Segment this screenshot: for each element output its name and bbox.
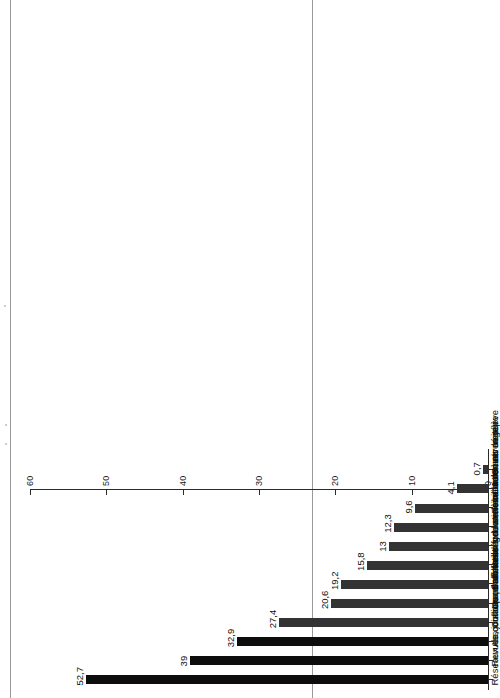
bar-value-label: 39: [179, 656, 189, 667]
value-axis-tick: [259, 489, 260, 495]
value-axis-tick-label: 40: [179, 476, 188, 486]
bar: [367, 561, 488, 570]
value-axis-tick-label: 60: [26, 476, 35, 486]
bar-value-label: 4,1: [446, 481, 456, 494]
bar: [457, 485, 488, 494]
bar-value-label: 27,4: [268, 610, 278, 629]
bar: [389, 542, 488, 551]
bar-value-label: 9,6: [404, 500, 414, 513]
bar: [483, 465, 488, 474]
bar: [331, 599, 488, 608]
bar-value-label: 0,7: [472, 462, 482, 475]
value-axis-tick: [412, 489, 413, 495]
bar: [279, 618, 488, 627]
bar-value-label: 13: [378, 541, 388, 552]
bar: [341, 580, 488, 589]
bar-value-label: 12,3: [383, 514, 393, 533]
bar-value-label: 15,8: [356, 552, 366, 571]
bar-value-label: 52,7: [75, 667, 85, 686]
value-axis-tick-label: 30: [255, 476, 264, 486]
bar: [237, 637, 488, 646]
value-axis-tick-label: 20: [331, 476, 340, 486]
value-axis-tick-label: 50: [102, 476, 111, 486]
bar-value-label: 32,9: [226, 629, 236, 648]
bar: [394, 523, 488, 532]
bar-value-label: 19,2: [330, 572, 340, 591]
value-axis-tick: [106, 489, 107, 495]
bar: [415, 504, 488, 513]
value-axis-tick: [30, 489, 31, 495]
value-axis-tick: [183, 489, 184, 495]
bar-value-label: 20,6: [320, 591, 330, 610]
value-axis-tick: [335, 489, 336, 495]
bar: [86, 676, 488, 685]
bar: [190, 656, 488, 665]
value-axis-tick-label: 10: [408, 476, 417, 486]
